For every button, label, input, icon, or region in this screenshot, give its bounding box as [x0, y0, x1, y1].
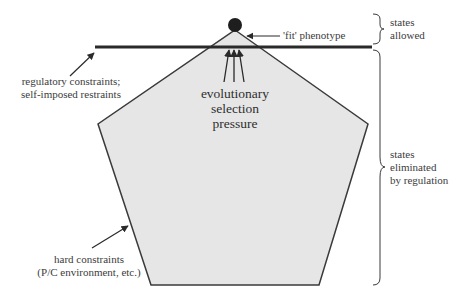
states-allowed-label: states allowed — [390, 16, 425, 42]
hard-constraints-arrow-icon — [92, 226, 128, 248]
regulatory-arrow-icon — [70, 53, 94, 76]
state-space-pentagon — [98, 30, 368, 285]
fit-phenotype-dot — [228, 18, 242, 32]
selection-pressure-label: evolutionary selection pressure — [185, 86, 285, 131]
states-allowed-brace-icon — [373, 14, 384, 44]
hard-constraints-label: hard constraints (P/C environment, etc.) — [30, 253, 148, 279]
fit-phenotype-label: 'fit' phenotype — [283, 29, 345, 42]
states-eliminated-brace-icon — [373, 50, 385, 285]
regulatory-constraints-label: regulatory constraints; self-imposed res… — [12, 75, 130, 101]
states-eliminated-label: states eliminated by regulation — [390, 148, 448, 187]
